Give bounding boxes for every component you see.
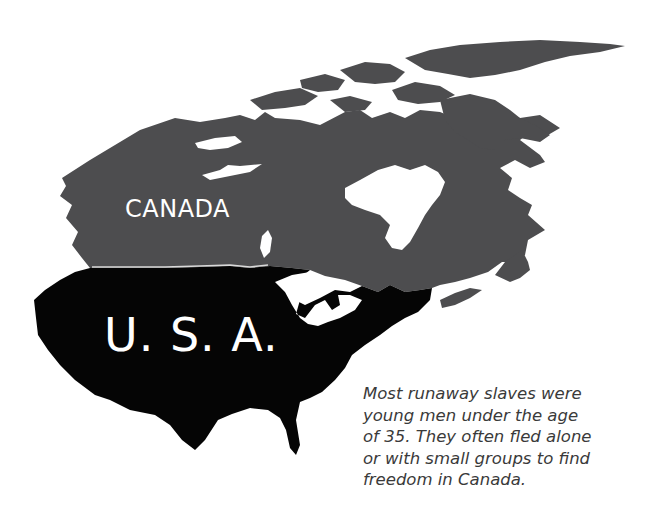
usa-label: U. S. A. (104, 308, 279, 362)
arctic-island-5 (405, 40, 625, 78)
arctic-island-3 (340, 62, 405, 84)
caption-line: of 35. They often fled alone (363, 426, 663, 448)
caption: Most runaway slaves were young men under… (363, 383, 663, 491)
arctic-island-1 (250, 88, 318, 110)
caption-line: Most runaway slaves were (363, 383, 663, 405)
arctic-island-2 (300, 74, 345, 92)
arctic-island-6 (330, 96, 372, 112)
canada-label: CANADA (125, 195, 230, 223)
nova-scotia (440, 288, 482, 308)
caption-line: freedom in Canada. (363, 469, 663, 491)
caption-line: young men under the age (363, 405, 663, 427)
caption-line: or with small groups to find (363, 448, 663, 470)
